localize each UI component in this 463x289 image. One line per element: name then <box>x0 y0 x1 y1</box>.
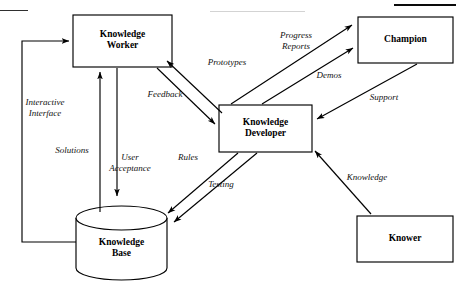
edge-interactive-interface <box>22 41 76 242</box>
node-knowledge-worker-shape <box>73 15 172 67</box>
edge-knowledge <box>315 151 371 214</box>
edge-testing <box>174 153 257 222</box>
edge-prototypes <box>167 61 222 113</box>
edge-demos <box>262 48 353 104</box>
diagram-svg <box>0 0 463 289</box>
edge-feedback <box>157 68 215 124</box>
diagram-canvas: Knowledge Worker Champion Knowledge Deve… <box>0 0 463 289</box>
edge-support <box>317 64 417 119</box>
node-knowledge-developer-shape <box>219 105 312 152</box>
edge-progress-reports <box>231 25 352 104</box>
node-knower-shape <box>357 216 453 262</box>
edge-rules <box>168 153 238 213</box>
node-champion-shape <box>358 17 453 63</box>
node-knowledge-base-shape <box>76 206 167 280</box>
